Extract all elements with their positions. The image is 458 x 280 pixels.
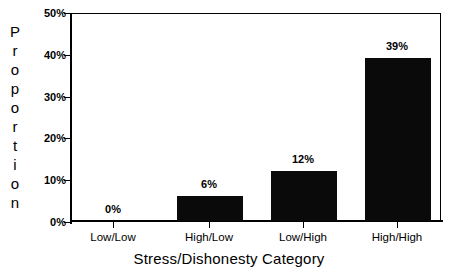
y-tick-label: 30%	[28, 91, 66, 102]
bar-high-high	[365, 58, 431, 221]
x-tick-mark	[209, 222, 210, 228]
x-axis-title: Stress/Dishonesty Category	[0, 250, 458, 267]
bar-chart-figure: P r o p o r t i o n 0% 10% 20% 30% 40% 5…	[0, 0, 458, 280]
y-tick-label: 40%	[28, 49, 66, 60]
x-tick-mark	[397, 222, 398, 228]
y-axis-title-letter: r	[13, 119, 18, 134]
bar-value-label: 39%	[364, 41, 430, 52]
y-axis-title-letter: o	[11, 100, 19, 115]
x-category-label-high-high: High/High	[342, 231, 452, 244]
y-tick-label: 10%	[28, 175, 66, 186]
y-axis-title-letter: r	[13, 43, 18, 58]
bar-low-high	[271, 171, 337, 221]
y-axis-title-letter: n	[11, 195, 19, 210]
bar-high-low	[177, 196, 243, 221]
x-category-label-low-low: Low/Low	[58, 231, 168, 244]
y-axis-title-letter: o	[11, 176, 19, 191]
x-tick-mark	[113, 222, 114, 228]
y-axis-title-letter: p	[11, 81, 19, 96]
bar-value-label: 12%	[270, 154, 336, 165]
y-axis-title-letter: P	[10, 24, 20, 39]
y-tick-label: 20%	[28, 133, 66, 144]
y-tick-label: 50%	[28, 8, 66, 19]
y-axis-title-letter: i	[13, 157, 16, 172]
y-axis-line	[70, 13, 72, 224]
y-axis-title-letter: t	[13, 138, 17, 153]
y-tick-label: 0%	[28, 217, 66, 228]
y-axis-title-letter: o	[11, 62, 19, 77]
x-tick-mark	[303, 222, 304, 228]
bar-value-label: 0%	[80, 204, 146, 215]
bar-value-label: 6%	[176, 179, 242, 190]
